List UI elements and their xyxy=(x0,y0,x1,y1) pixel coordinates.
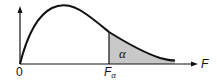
alpha-area-label: α xyxy=(119,47,126,60)
x-axis-arrow-icon xyxy=(191,62,198,67)
y-axis-arrow-icon xyxy=(18,6,23,13)
critical-value-subscript: α xyxy=(111,71,116,80)
critical-value-label: Fα xyxy=(104,66,116,80)
f-distribution-figure: 0 Fα F α xyxy=(0,0,217,84)
origin-label: 0 xyxy=(16,66,23,78)
density-curve xyxy=(20,5,175,64)
x-axis-label: F xyxy=(201,58,208,70)
